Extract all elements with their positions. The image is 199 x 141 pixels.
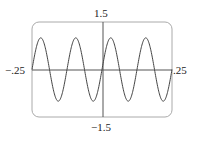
x-min-label: −.25: [5, 65, 25, 76]
sine-graph: [0, 0, 199, 141]
y-max-label: 1.5: [94, 8, 108, 19]
x-max-label: .25: [173, 65, 187, 76]
y-min-label: −1.5: [91, 122, 111, 133]
